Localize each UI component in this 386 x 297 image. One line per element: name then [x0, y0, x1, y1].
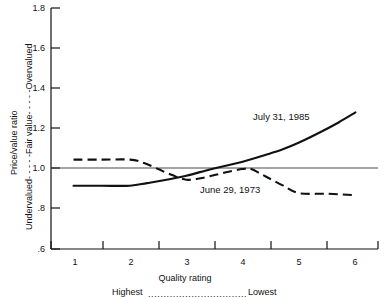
x-axis-ticks: [51, 241, 378, 249]
series-line-june-29-1973: [74, 159, 356, 195]
plot-area: [0, 0, 386, 297]
price-value-ratio-chart: Price/value ratio Undervalued- - - - -Fa…: [0, 0, 386, 297]
y-axis-ticks: [51, 8, 60, 249]
